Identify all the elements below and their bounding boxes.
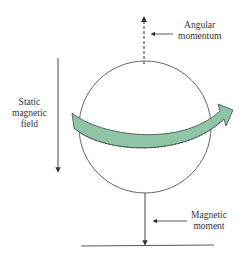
baseline [81,245,214,246]
spin-diagram: Angular momentum Static magnetic field M… [0,0,243,258]
static-field-label: Static magnetic field [12,97,47,130]
magnetic-moment-label: Magnetic moment [191,210,227,232]
angular-momentum-label: Angular momentum [178,20,221,42]
